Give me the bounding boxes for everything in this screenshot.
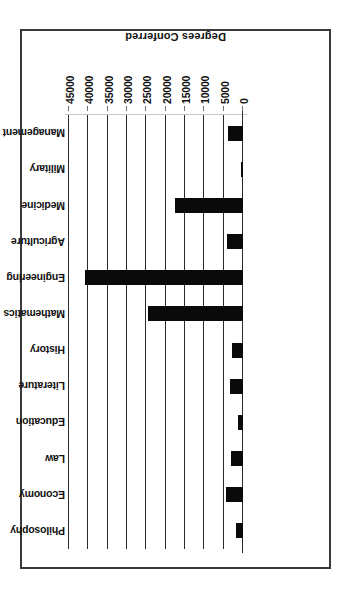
axis-tick [107,106,108,111]
category-label-mathematics: Mathematics [4,308,65,320]
bar-agriculture [227,234,243,249]
bar-history [232,343,243,358]
bar-row: Management [69,115,243,151]
bar-row: History [69,332,243,368]
category-label-history: History [30,344,65,356]
bar-row: Literature [69,368,243,404]
value-axis-tick-label: 20000 [161,76,173,104]
axis-tick [242,106,243,111]
plot-area: PhilosophyEconomyLawEducationLiteratureH… [69,115,243,549]
axis-tick [223,106,224,111]
bar-military [241,162,243,177]
bar-literature [230,379,243,394]
bar-philosophy [236,523,243,538]
bar-mathematics [148,306,243,321]
value-axis-tick-label: 25000 [141,76,153,104]
value-axis-tick-label: 15000 [180,76,192,104]
bar-management [228,126,243,141]
bar-row: Law [69,441,243,477]
axis-tick [165,106,166,111]
category-label-agriculture: Agriculture [11,236,65,248]
value-axis-tick-label: 0 [238,98,250,104]
axis-tick [203,106,204,111]
chart-frame: PhilosophyEconomyLawEducationLiteratureH… [20,29,331,569]
bar-education [238,415,243,430]
value-axis-tick-label: 40000 [83,76,95,104]
bars-group: PhilosophyEconomyLawEducationLiteratureH… [69,115,243,549]
bar-row: Philosophy [69,513,243,549]
category-label-management: Management [3,127,65,139]
category-label-engineering: Engineering [7,272,65,284]
axis-tick [68,106,69,111]
bar-row: Education [69,404,243,440]
category-label-medicine: Medicine [22,200,65,212]
axis-tick [145,106,146,111]
value-axis-tick-label: 10000 [199,76,211,104]
value-axis-ticks: 0500010000150002000025000300003500040000… [69,41,243,111]
category-label-literature: Literature [19,380,65,392]
bar-row: Agriculture [69,224,243,260]
bar-row: Medicine [69,187,243,223]
bar-law [231,451,243,466]
category-label-economy: Economy [19,489,65,501]
category-label-military: Military [30,163,65,175]
bar-row: Mathematics [69,296,243,332]
value-axis-tick-label: 45000 [64,76,76,104]
axis-tick [184,106,185,111]
rotated-figure-container: PhilosophyEconomyLawEducationLiteratureH… [0,0,353,596]
category-label-education: Education [16,416,65,428]
value-axis-tick-label: 35000 [103,76,115,104]
bar-row: Engineering [69,260,243,296]
category-label-law: Law [45,453,65,465]
bar-row: Economy [69,477,243,513]
category-label-philosophy: Philosophy [10,525,65,537]
value-axis-tick-label: 5000 [219,81,231,104]
bar-economy [226,487,243,502]
axis-title: Degrees Conferred [22,31,329,43]
value-axis-tick-label: 30000 [122,76,134,104]
axis-tick [126,106,127,111]
bar-engineering [85,270,243,285]
bar-medicine [175,198,243,213]
bar-row: Military [69,151,243,187]
axis-tick [87,106,88,111]
